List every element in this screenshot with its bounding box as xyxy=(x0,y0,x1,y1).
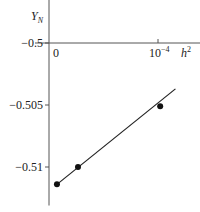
fit-line xyxy=(57,89,175,184)
x-tick-label: 10−4 xyxy=(149,45,170,60)
y-tick-label: −0.51 xyxy=(15,160,43,174)
data-point xyxy=(54,181,60,187)
data-point xyxy=(157,103,163,109)
y-tick-label: −0.505 xyxy=(9,98,43,112)
y-tick-label: −0.5 xyxy=(21,36,43,50)
data-point xyxy=(75,164,81,170)
x-tick-label: 0 xyxy=(53,46,59,60)
chart: 010−4−0.5−0.505−0.51 YN h2 xyxy=(0,0,200,212)
x-axis-label: h2 xyxy=(181,45,191,60)
y-axis-label: YN xyxy=(31,9,44,25)
